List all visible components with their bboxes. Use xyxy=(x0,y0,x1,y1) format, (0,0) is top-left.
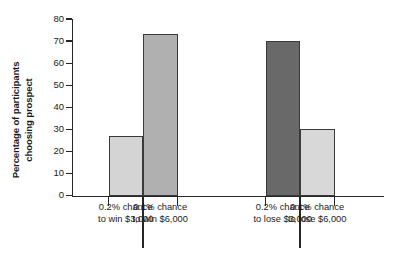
x-axis-category-label-line: 0.1% chance xyxy=(118,201,202,213)
x-axis-category-label: 0.1% chanceto win $6,000 xyxy=(118,201,202,226)
x-axis-category-label-line: 0.1% chance xyxy=(275,201,359,213)
bar xyxy=(143,34,178,195)
bar-chart: Percentage of participants choosing pros… xyxy=(0,0,404,255)
x-axis-category-label-line: to win $6,000 xyxy=(118,213,202,225)
bar xyxy=(300,129,335,195)
x-axis-category-label-line: to lose $6,000 xyxy=(275,213,359,225)
x-axis-category-label: 0.1% chanceto lose $6,000 xyxy=(275,201,359,226)
bar xyxy=(109,136,144,196)
bar xyxy=(266,41,301,196)
